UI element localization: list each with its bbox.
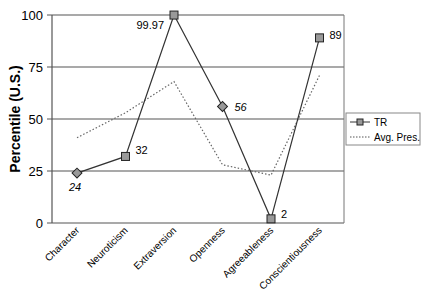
data-label: 56 [235, 101, 248, 113]
data-label: 32 [136, 144, 148, 156]
x-tick-label: Character [43, 224, 82, 263]
y-tick-label: 100 [21, 8, 43, 23]
data-point-marker [170, 11, 178, 19]
y-axis-ticks: 0255075100 [21, 8, 52, 231]
data-label: 89 [330, 29, 342, 41]
legend-tr-marker-icon [357, 119, 363, 125]
x-tick-label: Extraversion [131, 225, 178, 272]
data-label: 99.97 [136, 19, 164, 31]
data-label: 2 [281, 208, 287, 220]
legend: TR Avg. Pres. [346, 113, 420, 145]
y-tick-label: 50 [29, 112, 43, 127]
y-tick-label: 0 [36, 216, 43, 231]
data-point-marker [122, 152, 130, 160]
x-axis-labels: CharacterNeuroticismExtraversionOpenness… [43, 224, 324, 292]
y-axis-label: Percentile (U.S.) [7, 65, 23, 172]
data-point-marker [316, 34, 324, 42]
legend-item-avg-pres: Avg. Pres. [374, 132, 420, 143]
data-point-marker [72, 168, 82, 178]
legend-item-tr: TR [374, 117, 387, 128]
x-tick-label: Neuroticism [85, 225, 130, 270]
x-tick-label: Agreeableness [220, 225, 275, 280]
data-label: 24 [68, 181, 81, 193]
x-tick-label: Openness [187, 225, 227, 265]
y-tick-label: 25 [29, 164, 43, 179]
gridlines [52, 15, 344, 223]
y-tick-label: 75 [29, 60, 43, 75]
line-chart: 0255075100 Percentile (U.S.) 243299.9756… [0, 0, 424, 303]
series-tr: 243299.9756289 [68, 11, 342, 223]
data-point-marker [218, 102, 228, 112]
data-point-marker [267, 215, 275, 223]
